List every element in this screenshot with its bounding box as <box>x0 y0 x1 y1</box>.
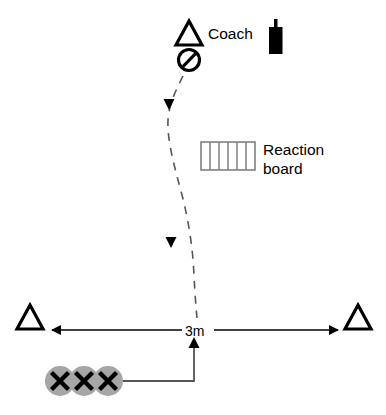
coach-cone-icon <box>176 21 202 45</box>
stopwatch-icon <box>269 19 283 54</box>
prohibition-circle-icon <box>179 50 200 71</box>
player-markers-group <box>45 366 123 396</box>
dashed-path-arrowhead-2 <box>166 237 177 248</box>
diagram-canvas: Coach <box>0 0 386 415</box>
drill-diagram: Coach <box>0 0 386 415</box>
player-marker <box>93 366 123 396</box>
distance-label: 3m <box>185 323 204 339</box>
reaction-board-group: Reaction board <box>201 141 324 177</box>
coach-label: Coach <box>208 25 253 42</box>
right-cone-icon <box>345 305 371 329</box>
reaction-board-label-line2: board <box>263 160 303 177</box>
approach-path-line <box>118 348 194 381</box>
coach-group: Coach <box>176 19 283 71</box>
approach-path-group <box>118 337 200 381</box>
left-cone-icon <box>17 305 43 329</box>
dashed-run-path <box>164 76 198 318</box>
reaction-board-label-line1: Reaction <box>263 141 324 158</box>
dashed-path-line <box>168 76 197 318</box>
dashed-path-arrowhead-1 <box>164 99 175 110</box>
